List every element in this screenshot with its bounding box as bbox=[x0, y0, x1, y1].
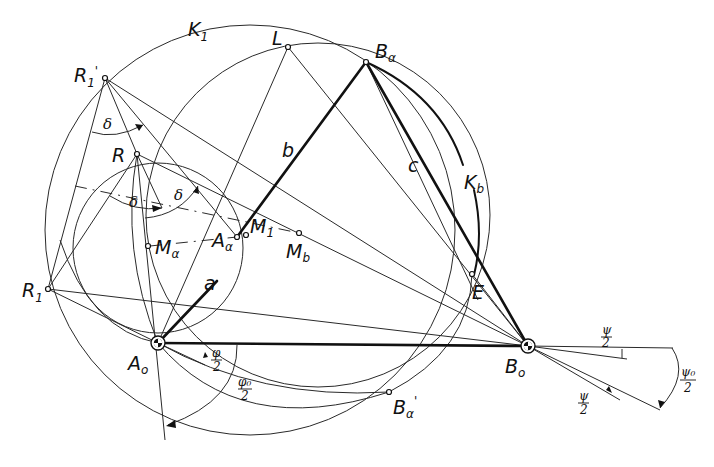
point-r bbox=[135, 152, 140, 157]
svg-text:ψ: ψ bbox=[602, 323, 612, 337]
label-m1: M1 bbox=[250, 215, 274, 240]
label-b0: Bo bbox=[505, 355, 525, 380]
point-l bbox=[286, 45, 291, 50]
label-k1: K1 bbox=[188, 18, 208, 44]
line-b0-psi0 bbox=[528, 346, 660, 410]
line-r-delta bbox=[137, 154, 162, 208]
label-psi-half-bottom: ψ 2 bbox=[578, 389, 589, 417]
point-a-alpha bbox=[235, 235, 240, 240]
arrow-phi0 bbox=[166, 420, 176, 428]
phi0-arc bbox=[168, 345, 237, 425]
line-r-a0 bbox=[137, 154, 165, 440]
pivot-b0 bbox=[521, 339, 535, 353]
point-r1 bbox=[46, 287, 51, 292]
line-r1-a0 bbox=[48, 289, 158, 343]
arrow-delta-left bbox=[152, 205, 162, 212]
label-r1-prime: R1' bbox=[74, 64, 98, 90]
label-a-alpha: Aα bbox=[210, 229, 233, 254]
psi0-arc bbox=[660, 348, 679, 408]
link-c bbox=[366, 62, 528, 346]
arrow-delta-top bbox=[135, 124, 143, 131]
label-b-alpha-prime: Bα' bbox=[393, 394, 417, 421]
label-a0: Ao bbox=[126, 352, 148, 377]
delta-arc-top bbox=[92, 125, 143, 135]
label-phi0-half: φ₀ 2 bbox=[238, 375, 252, 403]
svg-text:φ₀: φ₀ bbox=[238, 375, 251, 389]
label-m-alpha: Mα bbox=[155, 236, 179, 261]
line-r1p-r1 bbox=[48, 78, 105, 289]
link-b bbox=[237, 62, 366, 237]
line-a0-phi bbox=[158, 343, 205, 365]
point-m1 bbox=[244, 233, 249, 238]
svg-text:2: 2 bbox=[601, 336, 610, 350]
arrow-phi bbox=[203, 352, 208, 358]
label-e: E bbox=[472, 281, 484, 303]
label-phi-half: φ 2 bbox=[211, 346, 222, 374]
line-b0-right bbox=[528, 346, 673, 348]
linkage-construction-diagram: K1 L Bα R1' R b c Kb δ δ δ Aα M1 Mb Mα a… bbox=[0, 0, 714, 467]
line-b0-psi bbox=[528, 346, 627, 359]
label-psi-half-top: ψ 2 bbox=[601, 323, 612, 350]
point-e bbox=[470, 272, 475, 277]
label-delta-right: δ bbox=[174, 186, 183, 204]
svg-text:2: 2 bbox=[212, 360, 221, 374]
point-b-alpha-prime bbox=[387, 390, 392, 395]
label-psi0-half: ψ₀ 2 bbox=[680, 365, 696, 395]
svg-text:2: 2 bbox=[683, 381, 692, 395]
point-r1-prime bbox=[103, 76, 108, 81]
svg-text:2: 2 bbox=[240, 389, 249, 403]
point-mb bbox=[297, 231, 302, 236]
label-kb: Kb bbox=[464, 171, 484, 196]
label-mb: Mb bbox=[286, 240, 310, 265]
line-r-r1 bbox=[48, 154, 137, 289]
label-c: c bbox=[408, 154, 419, 176]
label-b: b bbox=[282, 139, 294, 161]
svg-text:2: 2 bbox=[579, 403, 588, 417]
svg-text:φ: φ bbox=[212, 346, 221, 360]
label-r: R bbox=[112, 144, 125, 166]
point-b-alpha bbox=[364, 60, 369, 65]
arc-lower-a0 bbox=[60, 240, 389, 393]
label-delta-left: δ bbox=[129, 193, 138, 211]
label-delta-top: δ bbox=[103, 115, 112, 133]
label-r1: R1 bbox=[22, 279, 43, 305]
line-b0-psi2 bbox=[528, 346, 620, 400]
pivot-a0 bbox=[151, 336, 165, 350]
label-l: L bbox=[272, 27, 283, 49]
label-b-alpha: Bα bbox=[375, 40, 396, 65]
svg-text:ψ: ψ bbox=[579, 389, 589, 403]
line-l-b0 bbox=[288, 47, 528, 346]
svg-text:ψ₀: ψ₀ bbox=[681, 365, 695, 379]
point-m-alpha bbox=[146, 244, 151, 249]
label-a: a bbox=[204, 272, 216, 294]
